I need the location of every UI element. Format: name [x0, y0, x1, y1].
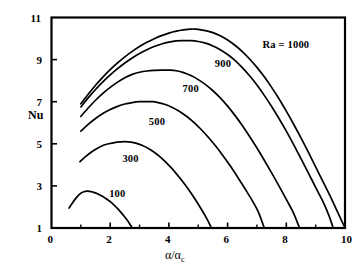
x-tick-label: 8: [282, 234, 288, 245]
curve-300: [80, 142, 211, 228]
x-tick-label: 2: [106, 234, 112, 245]
y-tick-label: 1: [37, 223, 43, 234]
y-tick-label: 9: [37, 55, 43, 66]
y-tick-label: 3: [37, 181, 43, 192]
curve-label-ra-1000: Ra = 1000: [262, 40, 309, 51]
curve-label-100: 100: [109, 189, 125, 200]
y-axis-label: Nu: [28, 109, 43, 121]
x-tick-label: 10: [341, 234, 352, 245]
curve-label-500: 500: [149, 117, 165, 128]
curve-900: [81, 41, 333, 228]
curve-label-300: 300: [122, 154, 138, 165]
curve-label-900: 900: [215, 59, 231, 70]
figure-container: 02468101357911Ra = 1000900700500300100 N…: [0, 0, 362, 271]
x-axis-label-main: α/α: [165, 248, 181, 262]
curve-label-700: 700: [183, 84, 199, 95]
curve-500: [81, 102, 264, 228]
x-tick-label: 6: [224, 234, 230, 245]
x-tick-label: 0: [48, 234, 54, 245]
x-axis-label: α/αc: [165, 249, 184, 264]
y-tick-label: 7: [37, 97, 43, 108]
x-tick-label: 4: [165, 234, 171, 245]
y-tick-label: 5: [37, 139, 43, 150]
y-tick-label: 11: [31, 13, 41, 24]
x-axis-label-subscript: c: [181, 255, 185, 264]
